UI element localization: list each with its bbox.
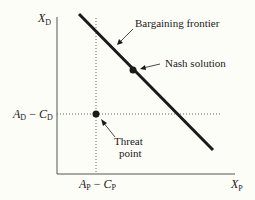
diagram-canvas: Bargaining frontier Nash solution Threat…: [0, 0, 255, 200]
bargaining-diagram: Bargaining frontier Nash solution Threat…: [0, 0, 255, 200]
bargaining-frontier-line: [79, 14, 213, 150]
threat-label-line2: point: [119, 147, 142, 159]
frontier-arrow-icon: [117, 29, 133, 45]
nash-solution-point: [130, 67, 137, 74]
nash-solution-label: Nash solution: [165, 57, 226, 69]
y-tick-label: AD − CD: [12, 107, 53, 122]
x-axis-label: XP: [230, 177, 243, 193]
y-axis-label: XD: [37, 11, 51, 27]
frontier-label: Bargaining frontier: [135, 17, 220, 29]
threat-point: [93, 111, 100, 118]
threat-label-line1: Threat: [114, 135, 143, 147]
x-tick-label: AP − CP: [78, 177, 117, 192]
nash-arrow-icon: [140, 64, 160, 70]
threat-arrow-icon: [101, 119, 115, 137]
